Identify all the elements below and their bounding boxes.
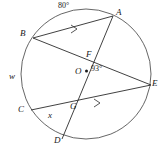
center-angle-label: 93°: [91, 65, 102, 73]
parallel-tick-icon-ce: [94, 99, 100, 107]
point-label-g: G: [70, 102, 77, 111]
point-label-d: D: [54, 136, 61, 145]
chord-be: [33, 38, 151, 85]
point-label-f: F: [86, 50, 92, 59]
circle-name-label: w: [9, 72, 15, 81]
point-label-b: B: [20, 29, 26, 38]
point-label-c: C: [18, 105, 24, 114]
center-dot-o: [85, 70, 88, 73]
chord-ce: [31, 85, 151, 110]
point-label-o: O: [75, 67, 82, 76]
geometry-figure: A B C D E F G O 80° 93° w x: [0, 0, 165, 151]
point-label-e: E: [152, 79, 158, 88]
circle-w: [21, 9, 151, 139]
unknown-angle-label: x: [48, 111, 52, 120]
circle-diagram-canvas: [0, 0, 165, 151]
chord-ad: [62, 16, 113, 139]
chord-ba: [33, 16, 113, 38]
point-label-a: A: [116, 8, 122, 17]
arc-measure-label: 80°: [58, 2, 69, 10]
